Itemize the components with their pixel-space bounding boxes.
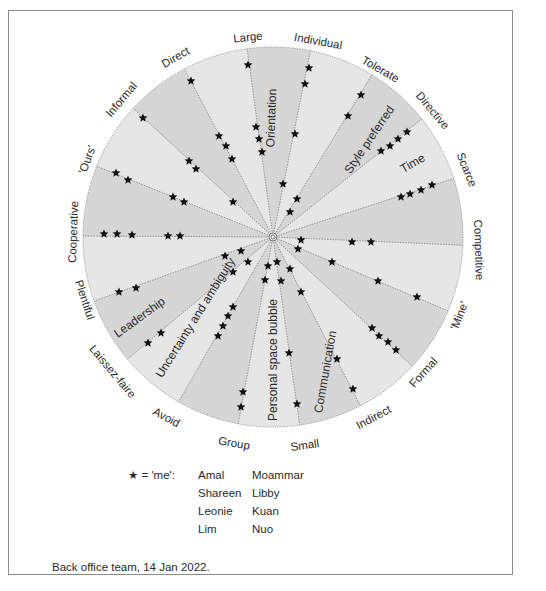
- legend-name: Leonie: [198, 504, 252, 519]
- pole-label: 'Ours': [76, 144, 97, 176]
- sector-label: Personal space bubble: [266, 299, 280, 421]
- pole-label: 'Mine': [448, 300, 470, 332]
- pole-label: Direct: [160, 44, 193, 70]
- pole-label: Large: [233, 30, 264, 45]
- pole-label: Cooperative: [66, 201, 80, 263]
- pole-label: Scarce: [455, 151, 480, 189]
- sector-label: Orientation: [263, 88, 279, 147]
- pole-label: Competitive: [472, 219, 486, 280]
- legend-name: Moammar: [252, 468, 322, 483]
- pole-label: Group: [217, 434, 251, 451]
- figure-caption: Back office team, 14 Jan 2022.: [52, 561, 210, 573]
- pole-label: Small: [290, 437, 320, 453]
- legend-key-text: = 'me':: [138, 469, 175, 481]
- legend-name: Shareen: [198, 486, 252, 501]
- legend-name: Lim: [198, 522, 252, 537]
- star-icon: ★: [128, 469, 138, 481]
- pole-label: Avoid: [151, 405, 182, 429]
- legend-name: Nuo: [252, 522, 322, 537]
- legend-key: ★ = 'me':: [128, 468, 175, 482]
- legend-name: Kuan: [252, 504, 322, 519]
- pole-label: Individual: [293, 31, 343, 51]
- center-target-icon: [269, 233, 277, 241]
- legend-names: Amal Moammar Shareen Libby Leonie Kuan L…: [198, 468, 322, 537]
- pole-label: Indirect: [354, 403, 394, 432]
- legend-name: Libby: [252, 486, 322, 501]
- legend-name: Amal: [198, 468, 252, 483]
